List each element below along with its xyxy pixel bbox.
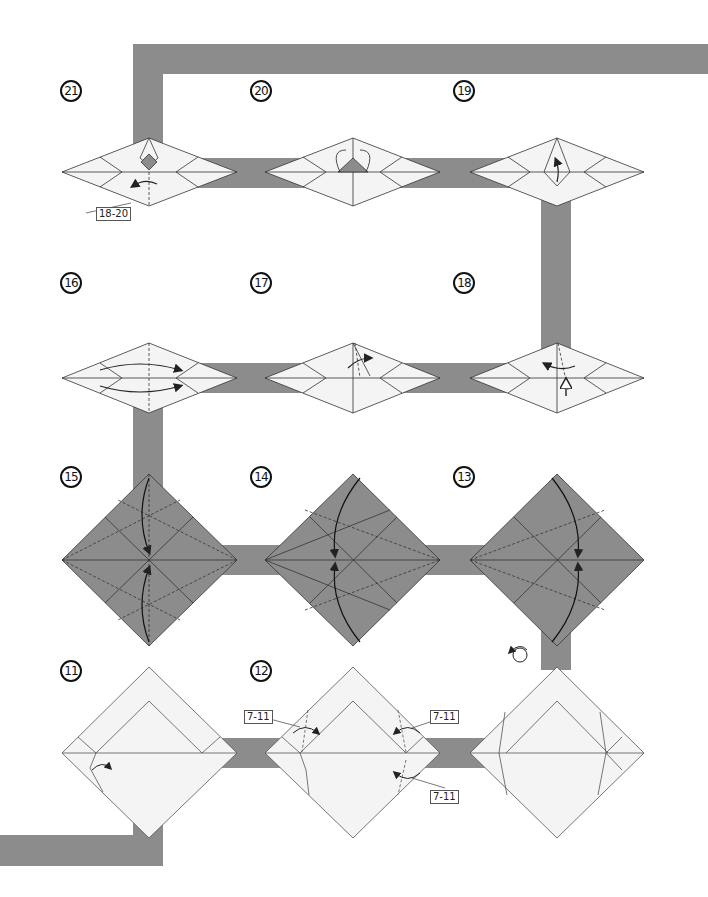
diagram-step-18 <box>470 343 644 413</box>
origami-diagram-page: 21 20 19 16 17 18 15 14 13 11 12 18-20 7… <box>0 0 708 897</box>
diagram-step-20 <box>265 138 440 206</box>
reference-label-7-11-left: 7-11 <box>244 710 273 724</box>
step-number-18: 18 <box>453 272 475 294</box>
step-number-12: 12 <box>250 660 272 682</box>
diagram-step-16 <box>62 343 237 413</box>
diagram-svg <box>0 0 708 897</box>
step-number-15: 15 <box>60 466 82 488</box>
turn-over-icon <box>510 646 527 662</box>
diagram-step-final <box>470 667 644 838</box>
step-number-17: 17 <box>250 272 272 294</box>
diagram-step-15 <box>62 474 237 646</box>
step-number-21: 21 <box>60 80 82 102</box>
diagram-step-12 <box>262 667 445 838</box>
step-number-16: 16 <box>60 272 82 294</box>
reference-label-7-11-bottom: 7-11 <box>430 790 459 804</box>
step-number-20: 20 <box>250 80 272 102</box>
diagram-step-11 <box>62 667 237 838</box>
reference-label-18-20: 18-20 <box>96 207 131 221</box>
diagram-step-19 <box>470 138 644 206</box>
reference-label-7-11-right: 7-11 <box>430 710 459 724</box>
diagram-step-14 <box>265 474 440 646</box>
diagram-step-17 <box>265 343 440 413</box>
diagram-step-21 <box>62 138 237 213</box>
step-number-14: 14 <box>250 466 272 488</box>
step-number-13: 13 <box>453 466 475 488</box>
step-number-19: 19 <box>453 80 475 102</box>
diagram-step-13 <box>470 474 644 646</box>
step-number-11: 11 <box>60 660 82 682</box>
